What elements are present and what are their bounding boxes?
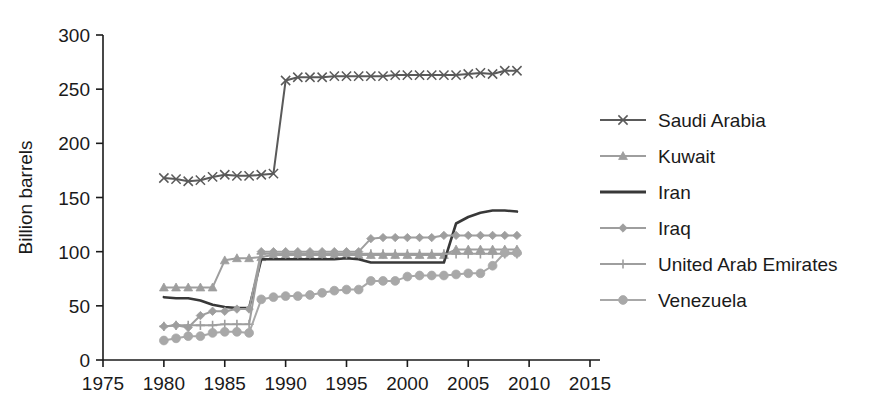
marker-diamond [476, 231, 484, 239]
marker-circle [342, 285, 351, 294]
legend-item-iran[interactable]: Iran [600, 182, 691, 203]
series-line [164, 71, 517, 182]
marker-circle [391, 277, 400, 286]
x-tick-label: 1975 [82, 373, 124, 394]
marker-circle [452, 270, 461, 279]
series-iran [164, 211, 517, 309]
legend-item-saudi-arabia[interactable]: Saudi Arabia [600, 110, 766, 131]
marker-plus [171, 321, 180, 330]
marker-circle [184, 332, 193, 341]
legend-label: Iran [658, 182, 691, 203]
y-axis-title: Billion barrels [15, 140, 36, 254]
marker-circle [354, 285, 363, 294]
marker-circle [306, 291, 315, 300]
marker-circle [464, 269, 473, 278]
y-tick-label: 300 [58, 25, 90, 46]
x-tick-label: 2000 [386, 373, 428, 394]
marker-diamond [415, 233, 423, 241]
marker-diamond [379, 233, 387, 241]
marker-circle [513, 248, 522, 257]
marker-circle [245, 329, 254, 338]
marker-diamond [513, 231, 521, 239]
marker-circle [269, 293, 278, 302]
series-saudi-arabia [159, 66, 521, 186]
legend-item-iraq[interactable]: Iraq [600, 218, 691, 239]
legend-label: Iraq [658, 218, 691, 239]
marker-circle [427, 271, 436, 280]
series-layer [159, 66, 521, 345]
marker-circle [330, 286, 339, 295]
x-tick-label: 2015 [569, 373, 611, 394]
marker-plus [159, 322, 168, 331]
marker-diamond [391, 233, 399, 241]
chart-container: 0501001502002503001975198019851990199520… [0, 0, 875, 410]
marker-circle [318, 288, 327, 297]
marker-circle [415, 271, 424, 280]
y-tick-label: 50 [69, 296, 90, 317]
marker-diamond [464, 231, 472, 239]
legend-label: Kuwait [658, 146, 716, 167]
x-tick-label: 2010 [508, 373, 550, 394]
series-venezuela [159, 248, 521, 345]
marker-diamond [440, 231, 448, 239]
legend-item-kuwait[interactable]: Kuwait [600, 146, 716, 167]
y-tick-label: 250 [58, 79, 90, 100]
oil-reserves-line-chart: 0501001502002503001975198019851990199520… [0, 0, 875, 410]
marker-circle [619, 296, 628, 305]
marker-diamond [619, 224, 627, 232]
x-tick-label: 1985 [204, 373, 246, 394]
legend-item-united-arab-emirates[interactable]: United Arab Emirates [600, 254, 838, 275]
marker-circle [159, 336, 168, 345]
marker-circle [488, 261, 497, 270]
marker-circle [366, 277, 375, 286]
series-line [164, 250, 517, 288]
legend-layer: Saudi ArabiaKuwaitIranIraqUnited Arab Em… [600, 110, 838, 311]
series-iraq [160, 231, 521, 331]
marker-diamond [403, 233, 411, 241]
marker-circle [293, 292, 302, 301]
y-tick-label: 150 [58, 188, 90, 209]
y-tick-label: 100 [58, 242, 90, 263]
marker-diamond [233, 305, 241, 313]
marker-circle [220, 327, 229, 336]
marker-circle [476, 269, 485, 278]
marker-circle [233, 327, 242, 336]
marker-diamond [488, 231, 496, 239]
x-tick-label: 1995 [325, 373, 367, 394]
legend-item-venezuela[interactable]: Venezuela [600, 290, 747, 311]
marker-circle [196, 332, 205, 341]
marker-diamond [501, 231, 509, 239]
marker-circle [379, 277, 388, 286]
legend-label: United Arab Emirates [658, 254, 838, 275]
legend-label: Saudi Arabia [658, 110, 766, 131]
x-tick-label: 1990 [264, 373, 306, 394]
y-tick-label: 0 [79, 350, 90, 371]
marker-diamond [208, 307, 216, 315]
marker-circle [208, 329, 217, 338]
marker-plus [196, 321, 205, 330]
y-tick-label: 200 [58, 133, 90, 154]
marker-circle [440, 271, 449, 280]
x-tick-label: 2005 [447, 373, 489, 394]
marker-circle [403, 272, 412, 281]
legend-label: Venezuela [658, 290, 747, 311]
marker-circle [500, 248, 509, 257]
marker-circle [172, 334, 181, 343]
x-tick-label: 1980 [143, 373, 185, 394]
series-line [164, 253, 517, 341]
marker-circle [281, 292, 290, 301]
marker-circle [257, 295, 266, 304]
series-line [164, 211, 517, 309]
marker-plus [618, 259, 627, 268]
marker-diamond [428, 233, 436, 241]
